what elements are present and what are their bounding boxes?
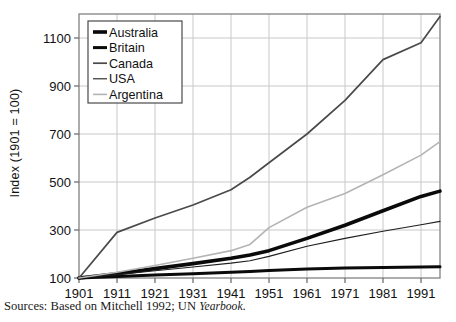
chart-figure: Index (1901 = 100) 1003005007009001100 1… (0, 0, 456, 322)
legend-label-canada: Canada (109, 57, 153, 71)
x-tick-label: 1971 (331, 286, 360, 301)
y-tick-label: 500 (49, 175, 71, 190)
y-axis-ticks: 1003005007009001100 (43, 31, 79, 286)
y-tick-label: 900 (49, 79, 71, 94)
legend-label-argentina: Argentina (109, 88, 163, 102)
source-suffix: . (243, 299, 246, 313)
source-note: Sources: Based on Mitchell 1992; UN Year… (4, 299, 246, 314)
source-prefix: Sources: Based on Mitchell 1992; UN (4, 299, 199, 313)
series-line-australia (79, 191, 440, 278)
x-axis-ticks: 1901191119211931194119511961197119811991 (65, 278, 436, 301)
x-tick-label: 1961 (293, 286, 322, 301)
legend-label-australia: Australia (109, 26, 158, 40)
x-tick-label: 1991 (407, 286, 436, 301)
y-tick-label: 700 (49, 127, 71, 142)
chart-legend: AustraliaBritainCanadaUSAArgentina (88, 21, 182, 103)
source-italic-title: Yearbook (199, 300, 242, 313)
legend-label-usa: USA (109, 72, 135, 86)
line-chart: 1003005007009001100 19011911192119311941… (0, 0, 456, 322)
x-tick-label: 1951 (255, 286, 284, 301)
x-tick-label: 1981 (369, 286, 398, 301)
legend-label-britain: Britain (109, 41, 145, 55)
y-tick-label: 100 (49, 271, 71, 286)
y-tick-label: 300 (49, 223, 71, 238)
y-tick-label: 1100 (43, 31, 71, 46)
